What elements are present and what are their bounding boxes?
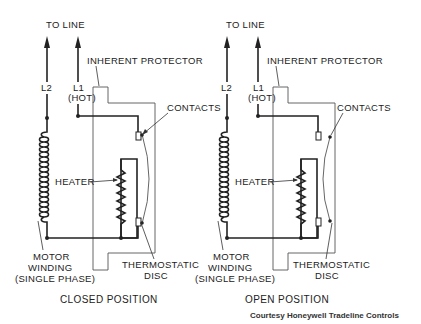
motor-leader <box>218 221 223 250</box>
inherent-protector-label: INHERENT PROTECTOR <box>267 55 383 66</box>
disc-label-2: DISC <box>144 270 168 281</box>
thermostatic-disc <box>323 137 330 221</box>
motor-label-1: MOTOR <box>33 251 70 262</box>
l2-label: L2 <box>221 82 232 93</box>
contacts-label: CONTACTS <box>337 102 391 113</box>
l2-label: L2 <box>41 82 52 93</box>
disc-label-1: THERMOSTATIC <box>122 259 199 270</box>
credit-line: Courtesy Honeywell Tradeline Controls <box>250 311 399 320</box>
top-contact <box>136 132 141 140</box>
bottom-contact <box>316 218 321 226</box>
motor-leader <box>38 221 43 250</box>
l1-hot-label: (HOT) <box>68 92 96 103</box>
disc-leader <box>141 223 154 259</box>
disc-leader <box>326 223 332 259</box>
motor-winding-coil <box>220 137 229 217</box>
disc-label-2: DISC <box>315 270 339 281</box>
l2-arrow-icon <box>224 36 230 48</box>
motor-label-2: WINDING <box>28 262 72 273</box>
contacts-leader <box>331 113 343 135</box>
to-line-label: TO LINE <box>46 19 85 30</box>
motor-label-1: MOTOR <box>213 251 250 262</box>
open-position-caption: OPEN POSITION <box>245 294 329 305</box>
protector-leader <box>276 66 279 86</box>
l1-hot-label: (HOT) <box>248 92 276 103</box>
motor-label-2: WINDING <box>208 262 252 273</box>
l1-to-contact-wire <box>258 116 318 133</box>
coil-top-lead <box>221 118 227 137</box>
bottom-contact <box>136 218 141 226</box>
closed-position-diagram: TO LINE L2 L1 (HOT) INHERENT PROTECTOR H… <box>15 19 221 305</box>
inherent-protector-label: INHERENT PROTECTOR <box>87 55 203 66</box>
contacts-label: CONTACTS <box>167 102 221 113</box>
motor-label-3: (SINGLE PHASE) <box>195 273 275 284</box>
l2-arrow-icon <box>44 36 50 48</box>
thermostatic-disc <box>142 134 149 224</box>
heater-label: HEATER <box>235 176 275 187</box>
l1-to-contact-wire <box>78 116 138 133</box>
open-position-diagram: TO LINE L2 L1 (HOT) INHERENT PROTECTOR H… <box>195 19 391 305</box>
protector-diagrams: TO LINE L2 L1 (HOT) INHERENT PROTECTOR H… <box>0 0 421 324</box>
protector-leader <box>96 66 99 86</box>
motor-winding-coil <box>40 137 49 217</box>
inherent-protector-housing <box>93 87 155 270</box>
l1-arrow-icon <box>75 36 81 48</box>
top-contact <box>316 132 321 140</box>
inherent-protector-housing <box>273 87 335 270</box>
heater-label: HEATER <box>55 176 95 187</box>
motor-label-3: (SINGLE PHASE) <box>15 273 95 284</box>
l1-arrow-icon <box>255 36 261 48</box>
disc-label-1: THERMOSTATIC <box>293 259 370 270</box>
to-line-label: TO LINE <box>226 19 265 30</box>
closed-position-caption: CLOSED POSITION <box>60 294 158 305</box>
coil-top-lead <box>41 118 47 137</box>
